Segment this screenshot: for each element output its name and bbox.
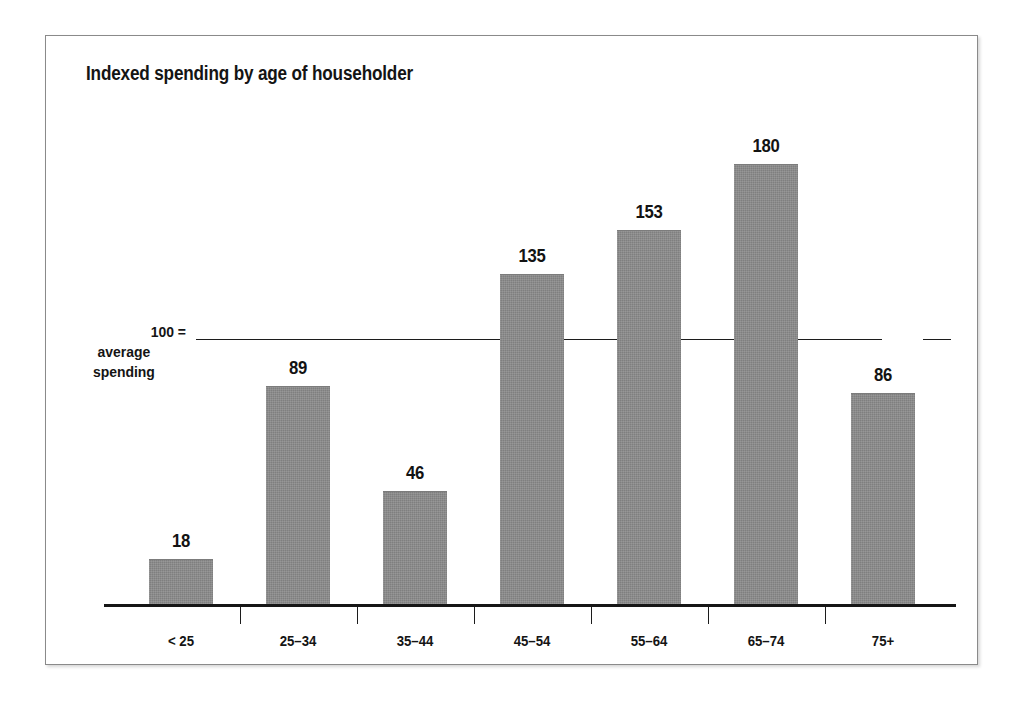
x-axis-tick	[357, 607, 358, 624]
x-axis-tick	[591, 607, 592, 624]
chart-frame: Indexed spending by age of householder 1…	[45, 35, 978, 665]
bar	[851, 393, 915, 604]
x-axis-category-label: 45–54	[490, 632, 574, 649]
bar	[734, 164, 798, 604]
chart-title: Indexed spending by age of householder	[86, 62, 413, 85]
bar	[500, 274, 564, 604]
bar-value-label: 180	[738, 135, 794, 157]
x-axis-tick	[825, 607, 826, 624]
bar	[383, 491, 447, 604]
bar-value-label: 86	[855, 364, 911, 386]
reference-line-label-word-average: average	[78, 342, 186, 362]
bar-value-label: 18	[153, 530, 209, 552]
x-axis-category-label: 55–64	[607, 632, 691, 649]
plot-area: Indexed spending by age of householder 1…	[46, 36, 979, 666]
x-axis-category-label: 25–34	[256, 632, 340, 649]
x-axis-category-label: 75+	[841, 632, 925, 649]
bar	[266, 386, 330, 604]
reference-line-segment-tail	[923, 339, 951, 340]
bar	[149, 559, 213, 604]
bar	[617, 230, 681, 604]
reference-line-label: 100 = average spending	[78, 322, 186, 381]
bar-value-label: 153	[621, 201, 677, 223]
x-axis-tick	[474, 607, 475, 624]
reference-line-label-word-spending: spending	[78, 362, 186, 382]
bar-value-label: 46	[387, 462, 443, 484]
reference-line-label-value: 100 =	[151, 323, 186, 340]
x-axis-category-label: 35–44	[373, 632, 457, 649]
x-axis-line	[104, 604, 956, 607]
bar-value-label: 89	[270, 357, 326, 379]
x-axis-category-label: < 25	[139, 632, 223, 649]
x-axis-category-label: 65–74	[724, 632, 808, 649]
bar-value-label: 135	[504, 245, 560, 267]
x-axis-tick	[240, 607, 241, 624]
x-axis-tick	[708, 607, 709, 624]
